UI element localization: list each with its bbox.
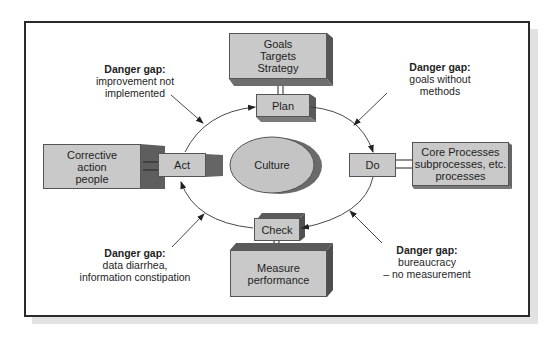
plan-label: Plan [272,100,294,112]
danger-gap-text: goals without methods [409,73,470,97]
measure-performance-label: Measure performance [248,262,310,286]
do-label: Do [365,159,379,171]
danger-gap-title: Danger gap: [377,244,477,256]
goals-box: Goals Targets Strategy [229,33,327,79]
goals-label: Goals Targets Strategy [258,38,299,74]
danger-gap-text: data diarrhea, information constipation [80,259,191,283]
culture-ellipse: Culture [230,152,314,178]
check-label: Check [261,224,292,236]
corrective-action-label: Corrective action people [67,149,117,185]
danger-gap-bottom-left: Danger gap: data diarrhea, information c… [70,247,200,283]
check-box: Check [254,218,300,241]
do-box: Do [349,153,396,177]
danger-gap-title: Danger gap: [390,61,490,73]
act-box: Act [158,153,206,177]
plan-box: Plan [256,94,310,117]
core-processes-label: Core Processes subprocesses, etc. proces… [415,146,507,182]
danger-gap-bottom-right: Danger gap: bureaucracy – no measurement [377,244,477,280]
culture-label: Culture [254,159,289,171]
danger-gap-top-left: Danger gap: improvement not implemented [80,63,190,99]
corrective-action-box: Corrective action people [43,144,141,189]
danger-gap-title: Danger gap: [80,63,190,75]
danger-gap-text: bureaucracy – no measurement [383,256,471,280]
core-processes-box: Core Processes subprocesses, etc. proces… [412,142,509,186]
danger-gap-title: Danger gap: [70,247,200,259]
danger-gap-top-right: Danger gap: goals without methods [390,61,490,97]
danger-gap-text: improvement not implemented [96,75,174,99]
measure-performance-box: Measure performance [230,250,327,297]
act-label: Act [174,159,190,171]
